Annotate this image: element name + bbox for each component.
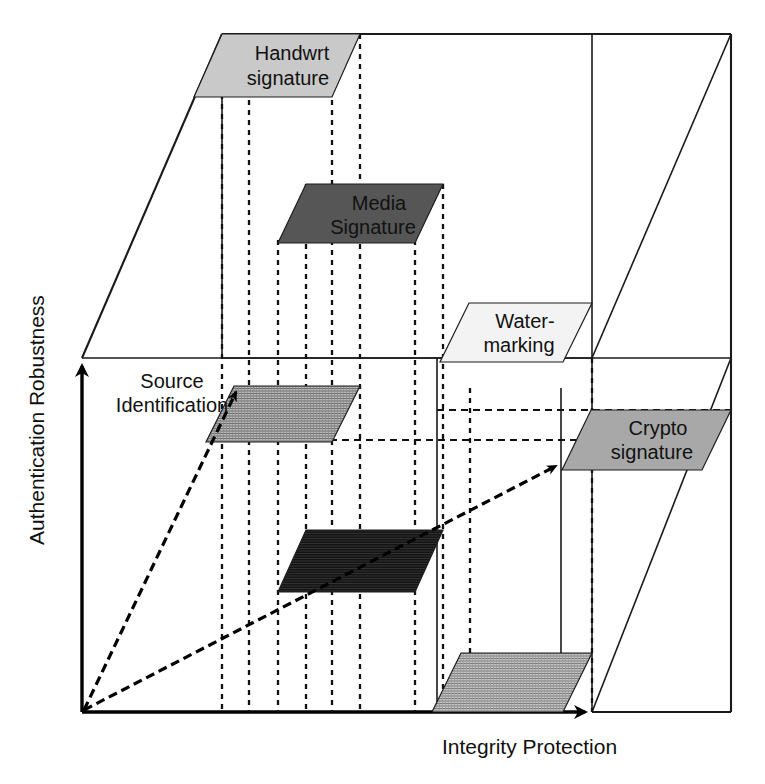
diagram-root: Handwrt signature Media Signature Water-… (0, 0, 765, 784)
x-axis-label: Integrity Protection (442, 735, 617, 758)
guide-lines (210, 34, 731, 712)
plate-media-label-line1: Media (352, 192, 407, 214)
plate-crypto-label-line2: signature (611, 441, 693, 463)
plate-media-signature[interactable]: Media Signature (278, 184, 443, 243)
plate-media-floor-shape (278, 530, 443, 592)
plate-water-marking[interactable]: Water- marking (440, 303, 592, 362)
cube-edge-depth-mid-left (592, 34, 731, 358)
plate-handwrt-label-line1: Handwrt (255, 42, 330, 64)
plate-handwrt-label-line2: signature (247, 67, 329, 89)
pointer-arrow-source-identification (84, 392, 236, 710)
plate-handwrt-signature[interactable]: Handwrt signature (194, 34, 360, 97)
callout-source-identification: Source Identification (116, 370, 228, 416)
plate-crypto-signature[interactable]: Crypto signature (562, 410, 731, 470)
plate-source-shape (206, 386, 360, 442)
cube-diagram: Handwrt signature Media Signature Water-… (0, 0, 765, 784)
plate-crypto-floor[interactable] (432, 653, 592, 712)
plate-crypto-label-line1: Crypto (629, 417, 688, 439)
callout-source-line2: Identification (116, 394, 228, 416)
plate-source-identification[interactable] (206, 386, 360, 442)
callout-source-line1: Source (140, 370, 203, 392)
plate-water-label-line2: marking (483, 334, 554, 356)
plate-media-label-line2: Signature (330, 216, 416, 238)
plate-media-floor[interactable] (278, 530, 443, 592)
y-axis-label: Authentication Robustness (25, 295, 48, 545)
plate-crypto-floor-shape (432, 653, 592, 712)
plate-water-label-line1: Water- (495, 310, 554, 332)
